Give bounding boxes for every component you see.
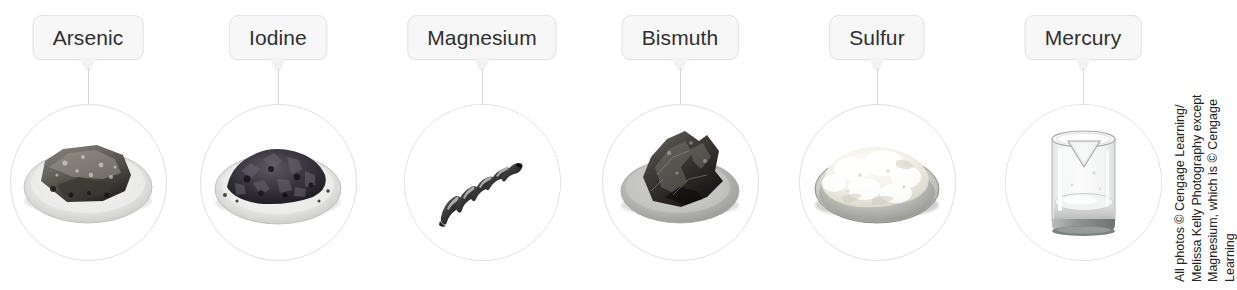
photo-circle-arsenic[interactable] bbox=[10, 104, 167, 261]
photo-circle-iodine[interactable] bbox=[200, 104, 357, 261]
photo-credit: All photos © Cengage Learning/ Melissa K… bbox=[1172, 94, 1237, 282]
leader-line-mercury bbox=[1083, 68, 1084, 105]
photo-circle-sulfur[interactable] bbox=[799, 104, 956, 261]
label-text-sulfur: Sulfur bbox=[849, 27, 904, 48]
beaker-mercury-liquid-photo bbox=[1006, 105, 1161, 260]
label-box-bismuth[interactable]: Bismuth bbox=[622, 15, 739, 60]
petri-dish-arsenic-lump-photo bbox=[11, 105, 166, 260]
specimen-iodine: Iodine bbox=[190, 0, 366, 290]
petri-dish-bismuth-crystal-photo bbox=[603, 105, 758, 260]
petri-dish-iodine-crystals-photo bbox=[201, 105, 356, 260]
label-text-arsenic: Arsenic bbox=[53, 27, 124, 48]
photo-circle-mercury[interactable] bbox=[1005, 104, 1162, 261]
magnesium-ribbon-coil-photo bbox=[405, 105, 560, 260]
label-box-iodine[interactable]: Iodine bbox=[229, 15, 327, 60]
credit-line-4: Learning bbox=[1222, 94, 1237, 282]
leader-line-sulfur bbox=[877, 68, 878, 105]
leader-line-iodine bbox=[278, 68, 279, 105]
label-text-mercury: Mercury bbox=[1045, 27, 1122, 48]
credit-line-1: All photos © Cengage Learning/ bbox=[1172, 94, 1189, 282]
specimen-sulfur: Sulfur bbox=[789, 0, 965, 290]
specimen-magnesium: Magnesium bbox=[394, 0, 570, 290]
label-box-arsenic[interactable]: Arsenic bbox=[33, 15, 144, 60]
leader-line-magnesium bbox=[482, 68, 483, 105]
label-text-iodine: Iodine bbox=[249, 27, 307, 48]
photo-circle-magnesium[interactable] bbox=[404, 104, 561, 261]
label-box-mercury[interactable]: Mercury bbox=[1025, 15, 1142, 60]
specimen-mercury: Mercury bbox=[995, 0, 1171, 290]
label-text-magnesium: Magnesium bbox=[427, 27, 536, 48]
element-samples-figure: Arsenic bbox=[0, 0, 1237, 290]
petri-dish-sulfur-powder-photo bbox=[800, 105, 955, 260]
label-box-sulfur[interactable]: Sulfur bbox=[829, 15, 924, 60]
specimen-arsenic: Arsenic bbox=[0, 0, 176, 290]
label-box-magnesium[interactable]: Magnesium bbox=[407, 15, 556, 60]
leader-line-arsenic bbox=[88, 68, 89, 105]
specimen-bismuth: Bismuth bbox=[592, 0, 768, 290]
label-text-bismuth: Bismuth bbox=[642, 27, 719, 48]
credit-line-3: Magnesium, which is © Cengage bbox=[1205, 94, 1222, 282]
leader-line-bismuth bbox=[680, 68, 681, 105]
photo-circle-bismuth[interactable] bbox=[602, 104, 759, 261]
credit-line-2: Melissa Kelly Photography except bbox=[1189, 94, 1206, 282]
